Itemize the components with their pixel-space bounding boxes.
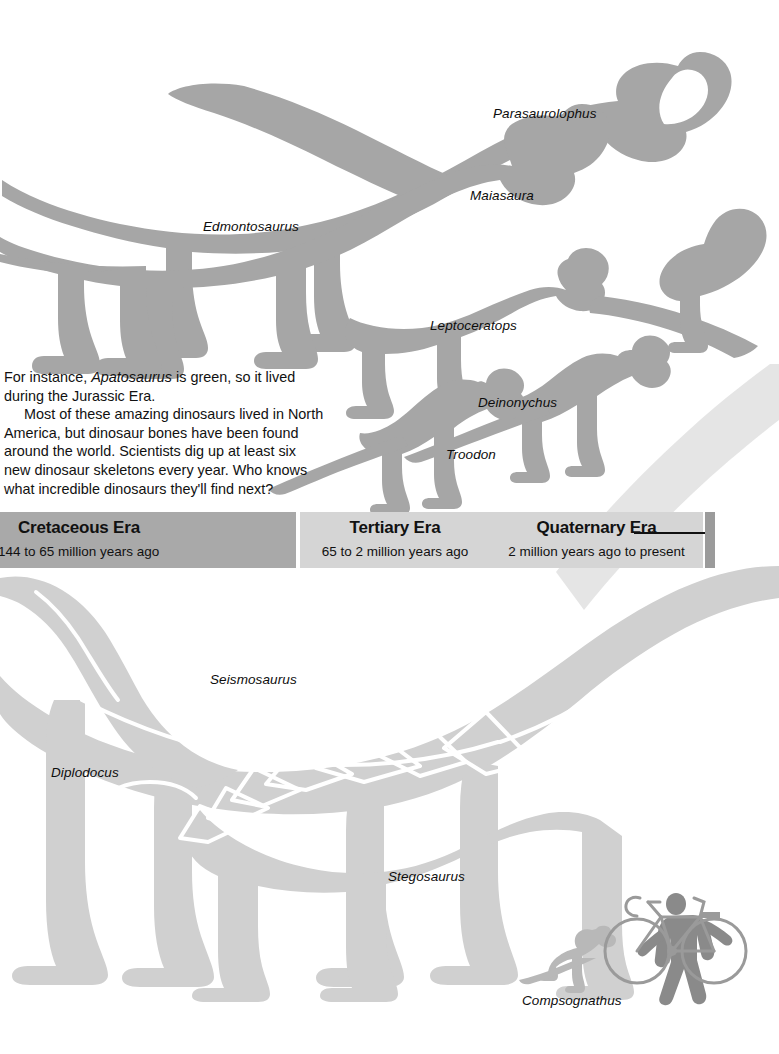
article-body-text: For instance, Apatosaurus is green, so i… <box>4 368 326 498</box>
era-title-tertiary: Tertiary Era <box>300 518 490 538</box>
era-block-quaternary[interactable]: Quaternary Era 2 million years ago to pr… <box>490 512 703 568</box>
era-range-tertiary: 65 to 2 million years ago <box>300 544 490 559</box>
label-stegosaurus: Stegosaurus <box>388 869 465 884</box>
paragraph-1: For instance, Apatosaurus is green, so i… <box>4 368 326 405</box>
label-diplodocus: Diplodocus <box>51 765 119 780</box>
geologic-era-timeline: Cretaceous Era 144 to 65 million years a… <box>0 512 779 572</box>
label-troodon: Troodon <box>446 447 496 462</box>
era-range-cretaceous: 144 to 65 million years ago <box>0 544 159 559</box>
era-range-quaternary: 2 million years ago to present <box>490 544 703 559</box>
label-seismosaurus: Seismosaurus <box>210 672 297 687</box>
era-title-cretaceous: Cretaceous Era <box>0 518 140 538</box>
timeline-end-marker <box>705 512 715 568</box>
label-parasaurolophus: Parasaurolophus <box>493 106 597 121</box>
paragraph-2: Most of these amazing dinosaurs lived in… <box>4 405 326 498</box>
label-leptoceratops: Leptoceratops <box>430 318 517 333</box>
dinosaur-timeline-page: Cretaceous Era 144 to 65 million years a… <box>0 0 779 1054</box>
label-deinonychus: Deinonychus <box>478 395 557 410</box>
era-title-quaternary: Quaternary Era <box>490 518 703 538</box>
label-edmontosaurus: Edmontosaurus <box>203 219 299 234</box>
era-block-cretaceous[interactable]: Cretaceous Era 144 to 65 million years a… <box>0 512 296 568</box>
paragraph-1-lead: For instance, <box>4 369 91 385</box>
label-maiasaura: Maiasaura <box>470 188 534 203</box>
label-compsognathus: Compsognathus <box>522 993 622 1008</box>
apatosaurus-italic: Apatosaurus <box>91 369 172 385</box>
quaternary-leader-rule <box>634 532 706 534</box>
era-block-tertiary[interactable]: Tertiary Era 65 to 2 million years ago <box>300 512 490 568</box>
